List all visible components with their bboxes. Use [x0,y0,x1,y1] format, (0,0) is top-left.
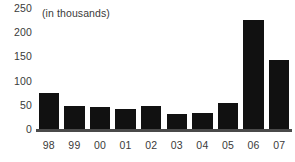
x-axis-tick-label: 07 [266,139,292,151]
x-axis-tick-label: 00 [87,139,113,151]
y-axis-tick-label: 0 [0,124,32,135]
x-axis-baseline [36,129,292,132]
bar [64,106,84,129]
bar [167,114,187,129]
bar [243,20,263,129]
x-axis-tick-label: 05 [215,139,241,151]
bar [90,107,110,129]
y-axis-tick-label: 50 [0,100,32,111]
bar [115,109,135,129]
x-axis-tick-label: 03 [164,139,190,151]
x-axis-tick-label: 01 [113,139,139,151]
y-axis-tick-label: 200 [0,27,32,38]
bars-layer [36,8,292,129]
bar [192,113,212,129]
plot-area [36,8,292,132]
x-axis: 98990001020304050607 [36,139,292,159]
bar [39,93,59,129]
x-axis-tick-label: 04 [190,139,216,151]
x-axis-tick-label: 06 [241,139,267,151]
x-axis-tick-label: 99 [62,139,88,151]
y-axis-tick-label: 150 [0,51,32,62]
bar [269,60,289,129]
y-axis: 050100150200250 [0,0,32,162]
y-axis-tick-label: 250 [0,3,32,14]
x-axis-tick-label: 98 [36,139,62,151]
bar [218,103,238,129]
bar-chart: 050100150200250 (in thousands) 989900010… [0,0,295,162]
y-axis-tick-label: 100 [0,75,32,86]
bar [141,106,161,129]
x-axis-tick-label: 02 [138,139,164,151]
